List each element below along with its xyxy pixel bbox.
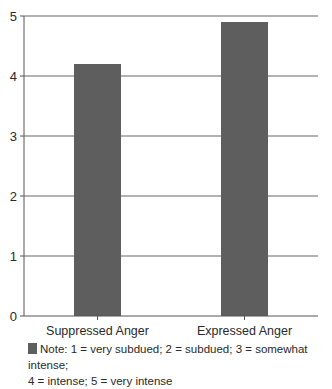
legend: Note: 1 = very subdued; 2 = subdued; 3 =… [28, 341, 328, 389]
y-tick-label: 4 [10, 69, 17, 84]
y-tick-labels: 012345 [10, 9, 17, 324]
x-tick-label: Suppressed Anger [46, 324, 149, 338]
x-tick-labels: Suppressed AngerExpressed Anger [46, 316, 292, 338]
y-tick-label: 2 [10, 189, 17, 204]
y-tick-label: 3 [10, 129, 17, 144]
x-tick-label: Expressed Anger [197, 324, 292, 338]
y-tick-label: 1 [10, 249, 17, 264]
bar-chart: 012345 Suppressed AngerExpressed Anger [0, 0, 332, 340]
y-tick-label: 0 [10, 309, 17, 324]
legend-text-line2: 4 = intense; 5 = very intense [28, 375, 172, 387]
bar [74, 64, 121, 316]
y-tick-label: 5 [10, 9, 17, 24]
legend-text-line1: Note: 1 = very subdued; 2 = subdued; 3 =… [28, 343, 308, 371]
bar [221, 22, 268, 316]
legend-swatch [28, 343, 37, 354]
gridlines [20, 16, 318, 316]
bars [74, 22, 268, 316]
